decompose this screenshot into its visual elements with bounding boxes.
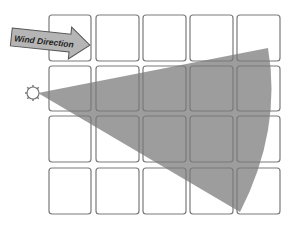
grid-cell — [49, 168, 91, 214]
wind-direction-arrow: Wind Direction — [10, 21, 92, 61]
grid-cell — [49, 116, 91, 162]
wind-plume-diagram: Wind Direction — [0, 0, 289, 230]
grid-cell — [143, 15, 186, 61]
grid-cell — [96, 168, 139, 214]
grid-cell — [190, 15, 233, 61]
source-gear-icon — [25, 85, 39, 101]
grid-cell — [96, 15, 139, 61]
